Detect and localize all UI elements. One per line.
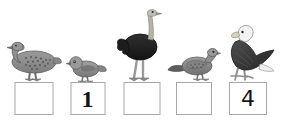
ostrich-icon [115,6,167,84]
bird-answer-group-1 [14,5,53,120]
goose-icon [4,38,64,84]
eagle-icon [220,24,276,84]
bird-answer-group-3 [123,0,160,120]
answer-box-4[interactable] [176,82,212,115]
answer-box-2[interactable]: 1 [70,82,105,115]
sparrow-icon [65,52,109,84]
answer-box-3[interactable] [123,82,160,115]
answer-value-2: 1 [82,87,94,111]
answer-box-5[interactable]: 4 [229,82,267,115]
worksheet-canvas: 1 [0,0,281,125]
answer-box-1[interactable] [14,82,53,115]
pigeon-icon [167,44,221,84]
answer-value-5: 4 [241,88,255,110]
bird-answer-group-2: 1 [70,5,105,120]
bird-answer-group-5: 4 [229,2,267,120]
bird-answer-group-4 [176,5,212,120]
